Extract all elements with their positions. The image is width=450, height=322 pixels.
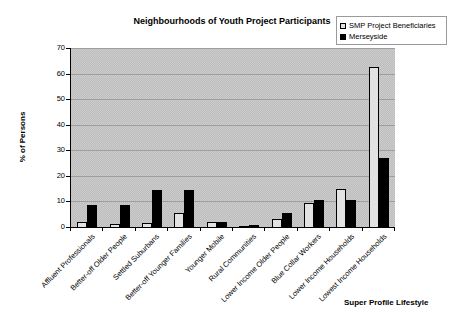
- bar-merseyside-9: [346, 200, 356, 227]
- gridline-70: [71, 48, 395, 49]
- y-tick-20: [66, 176, 70, 177]
- x-boundary-tick-6: [264, 228, 265, 231]
- bar-merseyside-7: [282, 213, 292, 227]
- legend-label-merseyside: Merseyside: [349, 32, 387, 41]
- y-tick-60: [66, 74, 70, 75]
- bar-merseyside-1: [87, 205, 97, 227]
- y-tick-label-20: 20: [43, 172, 65, 180]
- y-tick-label-70: 70: [43, 44, 65, 52]
- bar-merseyside-6: [249, 225, 259, 227]
- y-tick-10: [66, 201, 70, 202]
- y-tick-label-30: 30: [43, 146, 65, 154]
- y-tick-label-0: 0: [43, 223, 65, 231]
- y-tick-label-50: 50: [43, 95, 65, 103]
- x-boundary-tick-4: [200, 228, 201, 231]
- bar-merseyside-5: [217, 222, 227, 227]
- bar-merseyside-4: [184, 190, 194, 227]
- legend-label-smp: SMP Project Beneficiaries: [349, 21, 436, 30]
- bar-smp-6: [239, 226, 249, 227]
- bar-smp-9: [336, 189, 346, 227]
- bar-smp-1: [77, 222, 87, 227]
- gridline-60: [71, 74, 395, 75]
- legend: SMP Project Beneficiaries Merseyside: [336, 16, 447, 45]
- plot-area: [70, 48, 395, 228]
- x-boundary-tick-2: [135, 228, 136, 231]
- gridline-30: [71, 150, 395, 151]
- gridline-40: [71, 125, 395, 126]
- chart: Neighbourhoods of Youth Project Particip…: [0, 0, 450, 322]
- x-tick-label-2: Better-off Older People: [68, 232, 129, 293]
- x-boundary-tick-7: [297, 228, 298, 231]
- y-tick-label-40: 40: [43, 121, 65, 129]
- bar-merseyside-8: [314, 200, 324, 227]
- y-axis-title: % of Persons: [18, 112, 27, 163]
- bar-smp-5: [207, 222, 217, 227]
- legend-item-smp: SMP Project Beneficiaries: [340, 20, 443, 31]
- legend-swatch-merseyside-icon: [340, 34, 346, 40]
- legend-swatch-smp-icon: [340, 23, 346, 29]
- x-boundary-tick-10: [394, 228, 395, 231]
- gridline-20: [71, 176, 395, 177]
- bar-smp-4: [174, 213, 184, 227]
- x-boundary-tick-0: [70, 228, 71, 231]
- bar-smp-7: [272, 219, 282, 227]
- x-tick-label-9: Lower Income Households: [287, 232, 356, 301]
- bar-merseyside-2: [120, 205, 130, 227]
- y-tick-label-60: 60: [43, 70, 65, 78]
- x-tick-label-1: Affluent Professionals: [39, 232, 97, 290]
- bar-smp-8: [304, 203, 314, 227]
- y-tick-label-10: 10: [43, 197, 65, 205]
- x-boundary-tick-5: [232, 228, 233, 231]
- bar-smp-10: [369, 67, 379, 227]
- y-tick-50: [66, 99, 70, 100]
- x-tick-label-10: Lowest Income Households: [317, 232, 389, 304]
- y-tick-40: [66, 125, 70, 126]
- x-boundary-tick-8: [329, 228, 330, 231]
- x-boundary-tick-9: [362, 228, 363, 231]
- x-axis-title: Super Profile Lifestyle: [344, 298, 428, 307]
- y-tick-70: [66, 48, 70, 49]
- legend-item-merseyside: Merseyside: [340, 31, 443, 42]
- x-boundary-tick-1: [102, 228, 103, 231]
- bar-smp-2: [110, 224, 120, 227]
- bar-smp-3: [142, 223, 152, 227]
- bar-merseyside-10: [379, 158, 389, 227]
- y-tick-30: [66, 150, 70, 151]
- x-boundary-tick-3: [167, 228, 168, 231]
- bar-merseyside-3: [152, 190, 162, 227]
- gridline-50: [71, 99, 395, 100]
